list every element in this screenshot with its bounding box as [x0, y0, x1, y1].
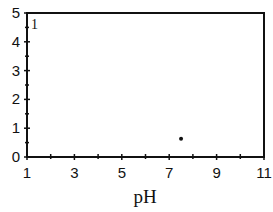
x-tick-label: 5 [118, 164, 126, 181]
plot-frame [27, 13, 264, 157]
data-points [179, 137, 183, 141]
y-tick-label: 4 [12, 33, 20, 50]
x-axis-title: pH [133, 186, 157, 207]
y-tick-label: 1 [12, 119, 20, 136]
y-tick-label: 2 [12, 90, 20, 107]
scatter-chart: 012345 1357911 1 pH [0, 0, 273, 212]
x-tick-label: 3 [70, 164, 78, 181]
data-point [179, 137, 183, 141]
x-tick-label: 9 [212, 164, 220, 181]
x-tick-label: 1 [23, 164, 31, 181]
panel-label: 1 [31, 17, 38, 32]
x-tick-label: 7 [165, 164, 173, 181]
y-tick-label: 0 [12, 148, 20, 165]
y-tick-label: 3 [12, 62, 20, 79]
x-axis-ticks: 1357911 [23, 154, 272, 181]
plot-border [27, 13, 264, 157]
y-tick-label: 5 [12, 4, 20, 21]
x-tick-label: 11 [256, 164, 272, 181]
